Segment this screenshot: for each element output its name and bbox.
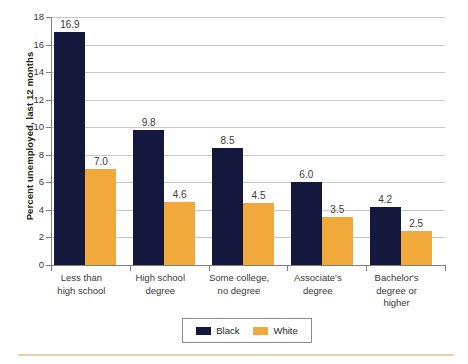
bar-black [54,32,85,265]
x-tick-mark [209,266,210,271]
x-tick-mark [445,266,446,271]
value-label-black: 16.9 [54,19,85,30]
legend-item-white[interactable]: White [253,326,297,336]
bar-white [85,169,116,265]
plot-area [51,17,445,265]
x-axis-label: Bachelor's degree or higher [357,272,436,310]
bar-chart: Percent unemployed, last 12 months 18161… [0,0,468,364]
bar-black [370,207,401,265]
bar-white [243,203,274,265]
y-tick-label: 2 [24,232,44,241]
bar-white [401,231,432,265]
value-label-black: 4.2 [370,194,401,205]
x-axis-label: High school degree [121,272,200,297]
x-tick-mark [366,266,367,271]
x-tick-mark [130,266,131,271]
value-label-white: 4.5 [243,190,274,201]
bar-white [322,217,353,265]
x-tick-mark [51,266,52,271]
bottom-rule-divider [18,354,454,356]
legend-swatch-black-icon [196,327,211,335]
value-label-black: 6.0 [291,169,322,180]
bar-black [212,148,243,265]
value-label-white: 7.0 [85,156,116,167]
bar-black [291,182,322,265]
y-tick-label: 10 [24,122,44,131]
x-axis-label: Some college, no degree [200,272,279,297]
legend-item-black[interactable]: Black [196,326,239,336]
y-tick-label: 4 [24,205,44,214]
bar-black [133,130,164,265]
y-tick-label: 18 [24,12,44,21]
x-axis-label: Less than high school [42,272,121,297]
legend-label-white: White [273,326,297,336]
x-axis-label: Associate's degree [278,272,357,297]
x-tick-mark [287,266,288,271]
legend: Black White [182,318,312,343]
y-tick-label: 0 [24,260,44,269]
y-tick-label: 6 [24,177,44,186]
value-label-white: 3.5 [322,204,353,215]
legend-label-black: Black [216,326,239,336]
bar-white [164,202,195,265]
value-label-black: 8.5 [212,135,243,146]
x-axis-line [51,265,446,266]
y-tick-label: 14 [24,67,44,76]
y-tick-label: 8 [24,150,44,159]
legend-swatch-white-icon [253,327,268,335]
value-label-white: 2.5 [401,218,432,229]
value-label-white: 4.6 [164,189,195,200]
value-label-black: 9.8 [133,117,164,128]
y-tick-label: 16 [24,40,44,49]
y-tick-label: 12 [24,95,44,104]
